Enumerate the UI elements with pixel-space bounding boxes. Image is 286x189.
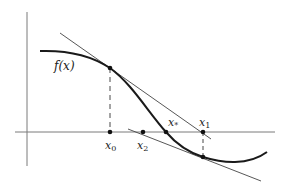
label-xstar: x* bbox=[168, 117, 178, 130]
point-xstar bbox=[164, 130, 169, 135]
point-x2 bbox=[141, 130, 146, 135]
tangent-at-x0 bbox=[60, 33, 211, 139]
tangent-at-x1 bbox=[128, 129, 261, 181]
label-x2: x2 bbox=[137, 140, 148, 153]
point-f-x1 bbox=[201, 155, 206, 160]
point-f-x0 bbox=[108, 66, 113, 71]
point-x0 bbox=[108, 130, 113, 135]
point-x1 bbox=[201, 130, 206, 135]
label-x0: x0 bbox=[105, 140, 116, 153]
label-x1: x1 bbox=[199, 117, 210, 130]
function-label: f(x) bbox=[54, 60, 75, 72]
newton-method-diagram bbox=[0, 0, 286, 189]
